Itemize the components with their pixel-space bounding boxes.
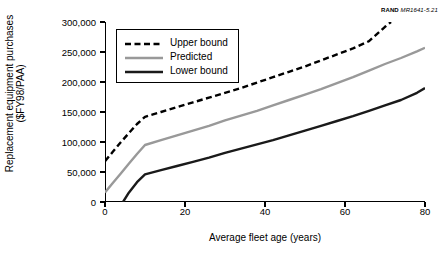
legend-swatch-icon [125,36,163,48]
legend-label: Predicted [170,51,212,62]
y-axis-title-line1: Replacement equipment purchases [4,15,16,172]
legend-label: Lower bound [170,65,228,76]
y-tick-mark [100,51,105,52]
legend-item: Upper bound [125,35,228,49]
y-tick-label: 0 [91,197,96,208]
x-tick-label: 20 [180,206,191,217]
source-credit: RAND MR1641-5.21 [381,7,438,13]
chart-figure: RAND MR1641-5.21 Replacement equipment p… [0,0,444,255]
y-tick-label: 50,000 [67,167,96,178]
legend-swatch-icon [125,50,163,62]
x-tick-label: 40 [260,206,271,217]
legend-item: Predicted [125,49,228,63]
y-axis-title-line2: ($FY98/PAA) [15,15,27,172]
y-tick-label: 200,000 [62,77,96,88]
y-tick-mark [100,21,105,22]
y-tick-mark [100,111,105,112]
legend-label: Upper bound [170,37,228,48]
credit-org: RAND [381,7,399,13]
x-tick-label: 60 [340,206,351,217]
legend: Upper boundPredictedLower bound [116,29,239,83]
y-tick-label: 250,000 [62,47,96,58]
y-axis-title: Replacement equipment purchases ($FY98/P… [4,15,27,172]
x-tick-label: 80 [420,206,431,217]
y-axis-title-wrapper: Replacement equipment purchases ($FY98/P… [0,0,30,221]
legend-swatch-icon [125,64,163,76]
x-axis-title: Average fleet age (years) [105,232,425,243]
y-tick-mark [100,141,105,142]
y-tick-mark [100,81,105,82]
y-tick-mark [100,171,105,172]
y-tick-label: 100,000 [62,137,96,148]
legend-item: Lower bound [125,63,228,77]
x-tick-label: 0 [102,206,107,217]
y-tick-label: 150,000 [62,107,96,118]
y-tick-label: 300,000 [62,17,96,28]
credit-figure-id: MR1641-5.21 [401,7,438,13]
